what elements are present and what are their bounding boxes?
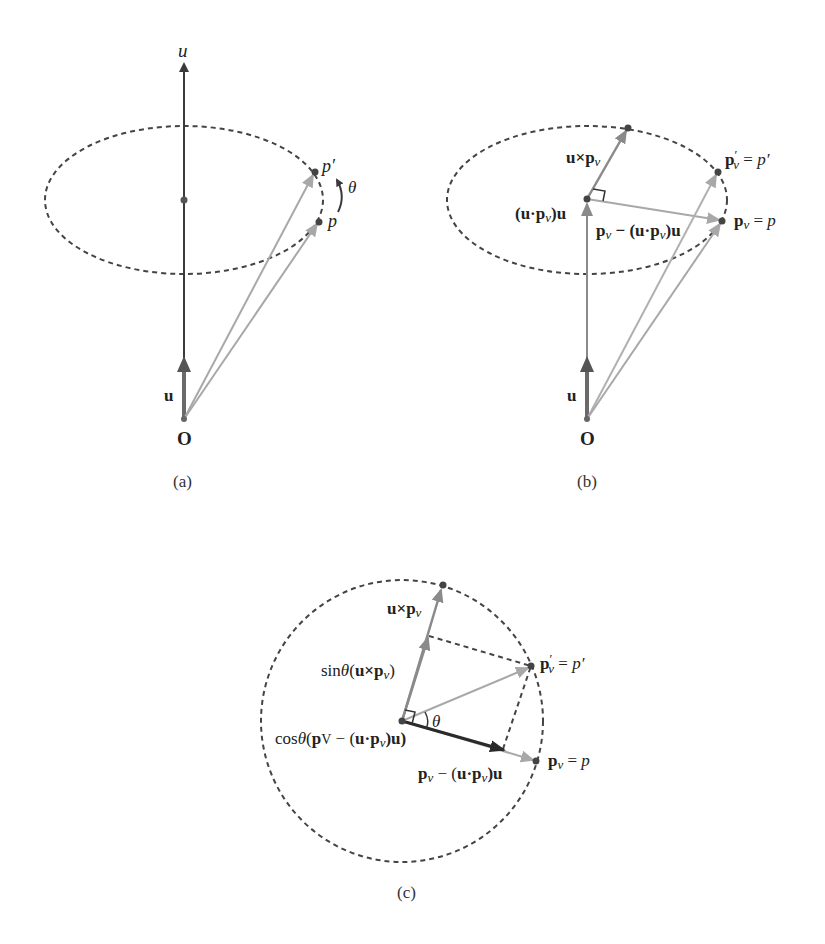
perpendicular-label: pv − (u·pv)u bbox=[596, 221, 681, 242]
angle-theta-label-c: θ bbox=[432, 712, 440, 731]
right-angle-mark bbox=[593, 189, 605, 201]
p-prime-label-b: p′v = p′ bbox=[725, 147, 770, 172]
p-prime-label: p′ bbox=[320, 156, 336, 176]
unit-vector-arrowhead-b bbox=[580, 356, 594, 372]
center-dot-c bbox=[399, 718, 406, 725]
cross-product-label: u×pv bbox=[566, 148, 601, 169]
projection-label: (u·pv)u bbox=[515, 204, 566, 225]
point-p bbox=[316, 219, 323, 226]
cross-tip-dot bbox=[625, 125, 632, 132]
cross-product-label-c: u×pv bbox=[387, 599, 422, 620]
p-label: p bbox=[326, 211, 337, 231]
origin-dot bbox=[181, 416, 187, 422]
p-label-b: pv = p bbox=[734, 211, 776, 232]
cos-component-label: cosθ(pV − (u·pv)u) bbox=[275, 729, 406, 750]
vector-to-p-prime-b bbox=[587, 175, 716, 419]
unit-vector-label: u bbox=[164, 386, 173, 405]
origin-label: O bbox=[177, 428, 192, 449]
vector-to-p bbox=[184, 224, 317, 419]
origin-label-b: O bbox=[580, 428, 595, 449]
caption-b: (b) bbox=[577, 472, 597, 491]
construction-line-sin bbox=[429, 636, 531, 666]
unit-vector-label-b: u bbox=[567, 386, 576, 405]
unit-vector-arrowhead bbox=[177, 356, 191, 372]
point-p-c bbox=[533, 758, 540, 765]
rotation-diagram: u u O p′ p θ (a) u×pv (u·pv)u bbox=[0, 0, 825, 944]
sin-component-vector bbox=[402, 638, 428, 721]
axis-center-dot bbox=[181, 197, 188, 204]
perpendicular-vector bbox=[587, 199, 719, 220]
rotated-vector bbox=[402, 668, 528, 721]
perpendicular-label-c: pv − (u·pv)u bbox=[418, 764, 503, 785]
vector-to-p-b bbox=[587, 224, 720, 419]
point-p-prime-b bbox=[715, 169, 722, 176]
panel-c: u×pv sinθ(u×pv) θ cosθ(pV − (u·pv)u) pv … bbox=[261, 580, 590, 902]
axis-label: u bbox=[178, 40, 188, 61]
origin-dot-b bbox=[584, 416, 590, 422]
rotation-arc bbox=[337, 180, 342, 212]
caption-a: (a) bbox=[173, 472, 192, 491]
cos-component-vector bbox=[402, 721, 504, 750]
panel-b: u×pv (u·pv)u pv − (u·pv)u p′v = p′ pv = … bbox=[447, 125, 776, 492]
cross-tip-dot-c bbox=[440, 582, 447, 589]
point-p-b bbox=[719, 218, 726, 225]
vector-to-p-prime bbox=[184, 175, 313, 419]
p-label-c: pv = p bbox=[548, 751, 590, 772]
center-dot-b bbox=[584, 196, 591, 203]
caption-c: (c) bbox=[397, 883, 416, 902]
angle-theta-label: θ bbox=[348, 178, 356, 197]
p-prime-label-c: p′v = p′ bbox=[540, 651, 585, 676]
construction-line-cos bbox=[503, 666, 531, 749]
sin-component-label: sinθ(u×pv) bbox=[321, 661, 395, 682]
panel-a: u u O p′ p θ (a) bbox=[45, 40, 356, 491]
point-p-prime-c bbox=[528, 663, 535, 670]
point-p-prime bbox=[312, 169, 319, 176]
